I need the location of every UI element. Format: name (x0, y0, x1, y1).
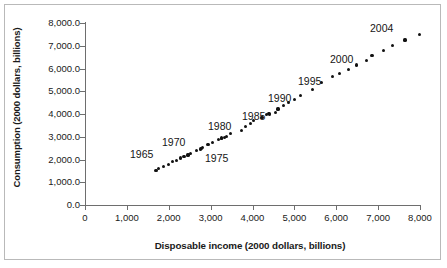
scatter-point (311, 88, 314, 91)
scatter-point (276, 107, 279, 110)
y-tick-label: 8,000.0 (20, 17, 80, 28)
scatter-point (167, 163, 170, 166)
chart-figure: Consumption (2000 dollars, billions) Dis… (0, 0, 447, 268)
scatter-point (282, 104, 285, 107)
year-annotation: 1980 (208, 120, 231, 132)
x-tick-label: 8,000 (390, 212, 447, 223)
x-tick (85, 205, 86, 210)
year-annotation: 1990 (268, 92, 291, 104)
x-tick (127, 205, 128, 210)
scatter-point (175, 159, 178, 162)
year-annotation: 1995 (298, 75, 321, 87)
y-tick-label: 6,000.0 (20, 63, 80, 74)
scatter-point (189, 152, 192, 155)
scatter-point (171, 160, 174, 163)
scatter-point (391, 44, 394, 47)
scatter-point (293, 98, 296, 101)
scatter-point (268, 113, 271, 116)
y-tick-label: 1,000.0 (20, 176, 80, 187)
scatter-point (244, 125, 247, 128)
scatter-point (299, 94, 302, 97)
year-annotation: 2000 (330, 53, 353, 65)
x-tick (294, 205, 295, 210)
y-tick-label: 4,000.0 (20, 108, 80, 119)
scatter-point (382, 49, 385, 52)
scatter-point (162, 165, 165, 168)
scatter-point (355, 63, 358, 66)
scatter-point (225, 135, 228, 138)
scatter-point (211, 141, 214, 144)
y-tick-label: 7,000.0 (20, 40, 80, 51)
x-tick (420, 205, 421, 210)
scatter-point (418, 33, 421, 36)
y-tick-label: 2,000.0 (20, 154, 80, 165)
scatter-point (240, 129, 243, 132)
scatter-point (201, 146, 204, 149)
x-tick (378, 205, 379, 210)
scatter-point (195, 149, 198, 152)
year-annotation: 2004 (370, 22, 393, 34)
y-tick-label-group: 0.01,000.02,000.03,000.04,000.05,000.06,… (14, 0, 80, 268)
x-tick (253, 205, 254, 210)
scatter-point (182, 155, 185, 158)
x-tick (211, 205, 212, 210)
y-tick-label: 3,000.0 (20, 131, 80, 142)
scatter-point (229, 132, 232, 135)
x-axis-title: Disposable income (2000 dollars, billion… (60, 240, 440, 251)
y-tick-label: 5,000.0 (20, 85, 80, 96)
year-annotation: 1965 (130, 148, 153, 160)
year-annotation: 1975 (205, 152, 228, 164)
scatter-point (338, 72, 341, 75)
scatter-point (274, 111, 277, 114)
x-tick (336, 205, 337, 210)
scatter-point (331, 75, 334, 78)
x-tick (169, 205, 170, 210)
scatter-point (403, 38, 406, 41)
scatter-point (370, 54, 373, 57)
scatter-point (249, 122, 252, 125)
y-tick-label: 0.0 (20, 199, 80, 210)
year-annotation: 1970 (162, 136, 185, 148)
scatter-point (347, 68, 350, 71)
scatter-point (365, 59, 368, 62)
scatter-point (179, 156, 182, 159)
scatter-point (157, 167, 160, 170)
scatter-point (206, 143, 209, 146)
year-annotation: 1985 (242, 110, 265, 122)
